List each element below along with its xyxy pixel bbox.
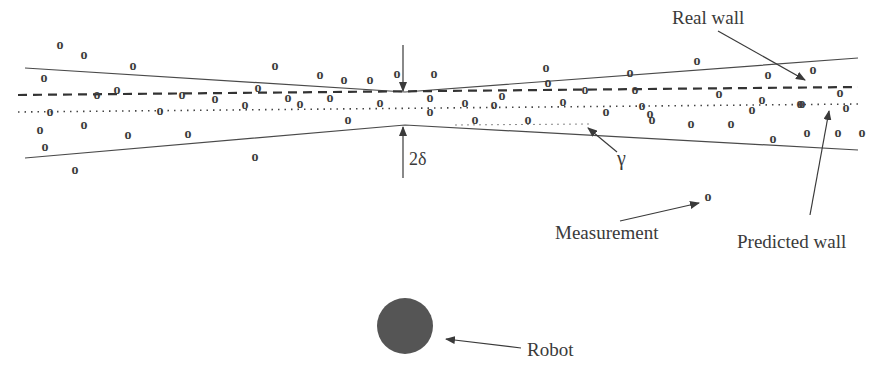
measurement-label: Measurement [555,223,658,242]
measurement-point: o [272,59,279,73]
measurement-point: o [462,96,469,110]
measurement-point: o [491,98,498,112]
measurement-point: o [770,132,777,146]
measurement-point: o [797,97,804,111]
real-wall-line [18,87,858,95]
measurement-point: o [57,38,64,52]
measurement-point: o [297,97,304,111]
measurement-point: o [843,101,850,115]
gamma-arrow [588,128,617,152]
measurement-point: o [317,68,324,82]
measurement-point: o [47,105,54,119]
measurement-point: o [582,83,589,97]
measurement-arrow [620,203,699,221]
measurement-point: o [367,73,374,87]
measurement-point: o [255,81,262,95]
predicted-wall-line [18,104,858,112]
measurement-point: o [81,118,88,132]
measurement-point: o [94,88,101,102]
measurement-point: o [394,67,401,81]
measurement-point: o [525,113,532,127]
measurement-point: o [688,117,695,131]
measurement-point: o [327,91,334,105]
measurement-point: o [639,99,646,113]
measurement-point: o [472,113,479,127]
measurement-point: o [427,91,434,105]
measurement-point: o [42,140,49,154]
predicted-wall-arrow [810,111,829,215]
measurement-point: o [705,190,712,204]
measurement-point: o [728,117,735,131]
measurement-point: o [749,103,756,117]
measurement-point: o [835,126,842,140]
real-wall-label: Real wall [672,8,744,27]
measurement-point: o [114,83,121,97]
measurement-point: o [252,150,259,164]
measurement-point: o [765,68,772,82]
predicted-wall-label: Predicted wall [737,232,846,251]
measurement-point: o [81,48,88,62]
robot-arrow [446,339,521,348]
measurement-point: o [345,113,352,127]
measurement-point: o [499,89,506,103]
measurement-point: o [804,126,811,140]
measurement-point: o [427,105,434,119]
uncertainty-upper-boundary [25,58,858,92]
measurement-point: o [716,87,723,101]
measurement-point: o [130,59,137,73]
measurement-point: o [157,104,164,118]
measurement-point: o [341,73,348,87]
measurement-point: o [185,127,192,141]
measurement-point: o [603,105,610,119]
measurement-point: o [560,95,567,109]
measurement-point: o [759,93,766,107]
real-wall-arrow [718,31,805,80]
measurement-point: o [810,63,817,77]
measurement-point: o [242,98,249,112]
measurement-point: o [37,123,44,137]
measurement-point: o [627,66,634,80]
measurement-point: o [125,128,132,142]
measurement-point: o [545,76,552,90]
robot-label: Robot [527,340,573,359]
two-delta-label: 2δ [409,150,426,168]
measurement-point: o [837,86,844,100]
measurement-point: o [212,92,219,106]
measurement-point: o [632,83,639,97]
measurement-point: o [543,61,550,75]
robot-icon [377,298,433,354]
measurement-point: o [285,91,292,105]
wall-prediction-diagram: oooooooooooooooooooooooooooooooooooooooo… [0,0,891,382]
measurement-point: o [179,88,186,102]
measurement-point: o [377,96,384,110]
measurement-point: o [72,163,79,177]
measurement-point: o [694,54,701,68]
gamma-label: γ [617,148,626,168]
measurement-point: o [41,71,48,85]
measurement-point: o [431,67,438,81]
measurement-point: o [649,113,656,127]
measurement-point: o [859,126,866,140]
